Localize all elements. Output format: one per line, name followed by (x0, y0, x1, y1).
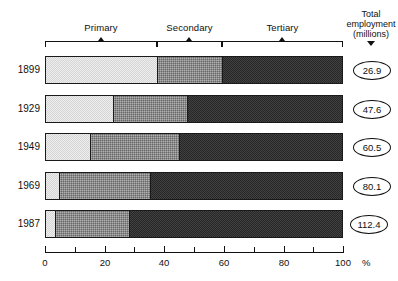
segment-secondary (55, 211, 130, 237)
segment-tertiary (129, 211, 342, 237)
table-row (45, 133, 343, 161)
category-label-tertiary: Tertiary (222, 22, 343, 33)
total-employment-caption-line2: employment (344, 19, 398, 30)
year-label-1899: 1899 (8, 64, 40, 75)
year-label-1969: 1969 (8, 180, 40, 191)
total-employment-value: 60.5 (353, 138, 391, 157)
segment-primary (46, 173, 59, 199)
segment-secondary (90, 134, 179, 160)
segment-tertiary (222, 57, 342, 83)
table-row (45, 95, 343, 123)
segment-secondary (157, 57, 222, 83)
brace-tick-tertiary (279, 37, 285, 41)
total-employment-value: 80.1 (353, 177, 391, 196)
segment-tertiary (187, 96, 342, 122)
segment-secondary (113, 96, 187, 122)
x-axis-tick-label: 0 (33, 257, 57, 268)
total-employment-caption-line1: Total (346, 9, 396, 20)
segment-tertiary (179, 134, 342, 160)
caption-arrow-icon (367, 41, 375, 46)
x-axis-tick-label: 100 (329, 257, 357, 268)
x-axis-unit-label: % (362, 257, 370, 268)
year-label-1929: 1929 (8, 103, 40, 114)
segment-primary (46, 96, 113, 122)
x-axis-tick-label: 60 (212, 257, 236, 268)
x-axis-tick (313, 247, 314, 252)
x-axis-tick (343, 246, 344, 252)
x-axis-tick-label: 40 (152, 257, 176, 268)
x-axis-tick (194, 247, 195, 252)
category-brace-primary (45, 41, 157, 47)
x-axis-tick (224, 246, 225, 252)
brace-tick-secondary (186, 37, 192, 41)
x-axis-tick (284, 246, 285, 252)
year-label-1987: 1987 (8, 218, 40, 229)
brace-tick-primary (98, 37, 104, 41)
stacked-bar-chart: Primary Secondary Tertiary Total employm… (0, 0, 398, 281)
segment-primary (46, 134, 90, 160)
x-axis-tick-label: 20 (93, 257, 117, 268)
x-axis-tick (105, 246, 106, 252)
x-axis-line (45, 252, 344, 253)
category-brace-tertiary (222, 41, 343, 47)
segment-tertiary (150, 173, 342, 199)
total-employment-value: 26.9 (353, 61, 391, 80)
total-employment-caption-line3: (millions) (346, 29, 396, 40)
x-axis-tick (134, 247, 135, 252)
table-row (45, 172, 343, 200)
category-label-secondary: Secondary (147, 22, 232, 33)
segment-primary (46, 57, 157, 83)
table-row (45, 56, 343, 84)
table-row (45, 210, 343, 238)
x-axis-tick (164, 246, 165, 252)
category-brace-secondary (157, 41, 222, 47)
x-axis-tick (254, 247, 255, 252)
total-employment-value: 112.4 (350, 215, 388, 234)
x-axis-tick (45, 246, 46, 252)
category-label-primary: Primary (45, 22, 157, 33)
year-label-1949: 1949 (8, 141, 40, 152)
x-axis-tick (75, 247, 76, 252)
x-axis-tick-label: 80 (272, 257, 296, 268)
segment-primary (46, 211, 55, 237)
segment-secondary (59, 173, 150, 199)
total-employment-value: 47.6 (353, 100, 391, 119)
